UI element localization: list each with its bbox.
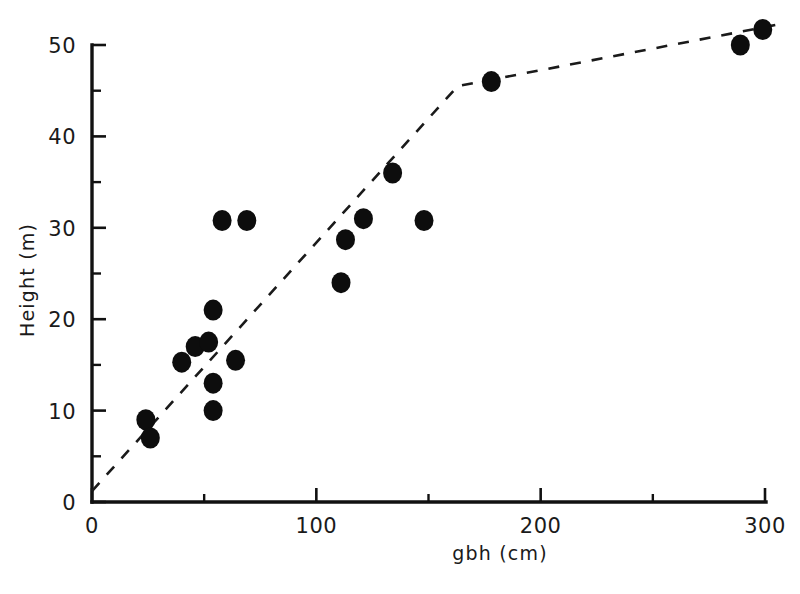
data-point [336,229,355,250]
x-axis-title: gbh (cm) [452,542,548,564]
y-tick-label: 50 [48,34,76,58]
data-point [213,210,232,231]
y-axis-title: Height (m) [16,223,38,337]
data-point [753,19,772,40]
data-point [731,35,750,56]
data-point [172,352,191,373]
data-point [141,428,160,449]
x-tick-label: 200 [520,514,562,538]
data-point [136,409,155,430]
x-tick-label: 0 [85,514,99,538]
figure-container: 01020304050 0100200300 gbh (cm) Height (… [0,0,800,594]
y-tick-label: 20 [48,308,76,332]
data-point [204,300,223,321]
plot-background [0,0,800,594]
y-tick-label: 10 [48,400,76,424]
y-tick-label: 0 [62,491,76,515]
data-point [237,210,256,231]
data-point [383,162,402,183]
scatter-plot: 01020304050 0100200300 gbh (cm) Height (… [0,0,800,594]
y-tick-label: 40 [48,125,76,149]
data-point [204,373,223,394]
data-point [482,71,501,92]
data-point [199,332,218,353]
data-point [354,208,373,229]
data-point [415,210,434,231]
data-point [332,272,351,293]
x-tick-label: 100 [296,514,338,538]
data-point [226,350,245,371]
y-tick-label: 30 [48,217,76,241]
data-point [204,400,223,421]
x-tick-label: 300 [744,514,786,538]
